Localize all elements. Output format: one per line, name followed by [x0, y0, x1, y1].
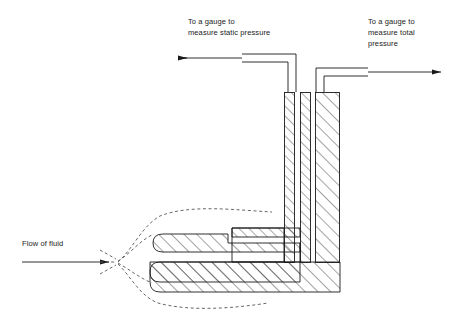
- streamline-lower-inner: [118, 263, 152, 283]
- stem-middle-wall: [301, 93, 311, 263]
- static-tube-outlet: [242, 54, 296, 92]
- elbow-block: [150, 262, 340, 292]
- lower-bar: [150, 262, 300, 282]
- diagram-canvas: [0, 0, 452, 328]
- total-gauge-label: To a gauge to measure total pressure: [368, 16, 415, 49]
- static-passage-roof: [232, 228, 300, 237]
- upper-bar-group: [153, 228, 300, 252]
- pitot-static-tube-diagram: To a gauge to measure static pressure To…: [0, 0, 452, 328]
- stem-body: [316, 93, 340, 263]
- streamlines: [100, 209, 272, 309]
- streamline-approach-1: [100, 250, 116, 259]
- flow-label: Flow of fluid: [22, 238, 63, 249]
- streamline-upper-inner: [118, 234, 154, 261]
- streamline-approach-3: [100, 265, 116, 274]
- static-gauge-label: To a gauge to measure static pressure: [188, 16, 270, 38]
- total-tube-outlet: [316, 68, 368, 92]
